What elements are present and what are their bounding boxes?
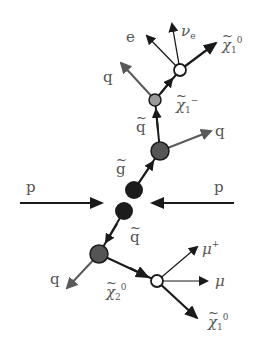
label-chargino-text: χ bbox=[176, 98, 185, 113]
label-neutralino2-text: χ bbox=[106, 285, 115, 300]
squark-node-lower bbox=[90, 245, 108, 263]
label-neutralino1-top-sub: 1 bbox=[231, 45, 237, 55]
neutralino2-decay-node bbox=[151, 275, 163, 287]
label-proton-left: p bbox=[26, 180, 36, 195]
label-proton-right: p bbox=[214, 180, 224, 195]
squark-node-upper bbox=[151, 142, 169, 160]
label-electron: e bbox=[126, 30, 135, 45]
label-quark-upper-left: q bbox=[103, 70, 113, 85]
label-muon: μ bbox=[215, 274, 225, 289]
label-gluino-text: g bbox=[116, 162, 126, 177]
label-muon-plus-sup: + bbox=[212, 239, 220, 249]
label-squark-lower-text: q bbox=[130, 230, 140, 245]
label-neutralino1-bottom-text: χ bbox=[208, 315, 217, 330]
gluino-arrow-up bbox=[138, 162, 153, 184]
squark-arrow-up bbox=[156, 110, 158, 130]
chargino-decay-node bbox=[174, 64, 186, 76]
neutralino1-bottom-arrow bbox=[157, 281, 197, 318]
label-neutralino2-sub: 2 bbox=[115, 292, 121, 302]
label-gluino: g bbox=[116, 162, 126, 177]
label-quark-upper-right: q bbox=[215, 124, 225, 139]
label-neutralino1-top-text: χ bbox=[222, 38, 231, 53]
label-squark-lower: q bbox=[130, 230, 140, 245]
label-squark-upper: q bbox=[136, 120, 146, 135]
label-muon-plus-text: μ bbox=[202, 240, 212, 258]
neutralino2-arrow bbox=[130, 268, 148, 277]
muon-plus-arrow bbox=[157, 247, 197, 281]
label-neutrino: νe bbox=[181, 24, 195, 41]
label-neutralino2-sup: 0 bbox=[121, 282, 127, 292]
label-chargino-sub: 1 bbox=[185, 105, 191, 115]
label-neutralino1-bottom: χ10 bbox=[208, 313, 229, 332]
label-neutralino1-top: χ10 bbox=[222, 36, 243, 55]
feynman-diagram: p p g q q χ1− q e νe χ10 q q χ20 μ+ μ χ1… bbox=[0, 0, 260, 345]
gluino-node-upper bbox=[125, 181, 143, 199]
squark-arrow-down bbox=[106, 224, 117, 242]
label-muon-plus: μ+ bbox=[202, 240, 219, 257]
label-chargino-sup: − bbox=[191, 95, 199, 105]
label-neutrino-text: ν bbox=[181, 22, 190, 40]
chargino-arrow bbox=[161, 79, 172, 93]
label-chargino: χ1− bbox=[176, 96, 198, 115]
label-quark-lower-left: q bbox=[50, 272, 60, 287]
label-neutralino2: χ20 bbox=[106, 283, 127, 302]
label-neutrino-sub: e bbox=[190, 31, 195, 41]
label-squark-upper-text: q bbox=[136, 120, 146, 135]
diagram-graphics bbox=[0, 0, 260, 345]
label-neutralino1-top-sup: 0 bbox=[237, 35, 243, 45]
quark-arrow-upper-left bbox=[121, 63, 155, 100]
gluino-node-lower bbox=[115, 202, 133, 220]
chargino-node bbox=[149, 94, 161, 106]
label-neutralino1-bottom-sup: 0 bbox=[223, 312, 229, 322]
label-neutralino1-bottom-sub: 1 bbox=[217, 322, 223, 332]
